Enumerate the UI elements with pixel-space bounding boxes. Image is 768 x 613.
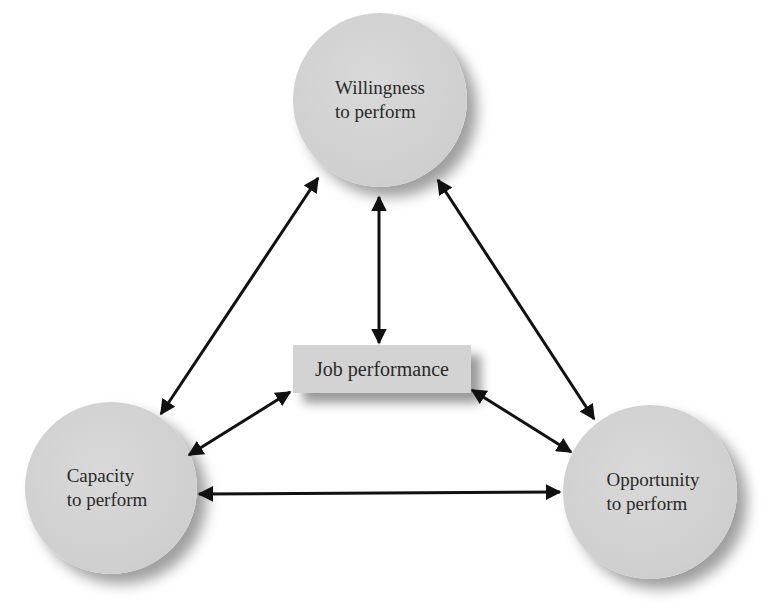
- arrow-capacity-job: [189, 392, 290, 455]
- arrow-willingness-opportunity: [438, 180, 594, 419]
- arrow-capacity-opportunity: [199, 492, 560, 494]
- arrow-opportunity-job: [472, 390, 571, 452]
- arrows-layer: [0, 0, 768, 613]
- arrow-willingness-capacity: [161, 178, 318, 414]
- diagram-canvas: Willingness to perform Capacity to perfo…: [0, 0, 768, 613]
